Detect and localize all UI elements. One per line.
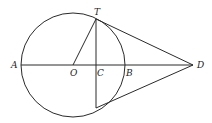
label-a: A — [10, 60, 18, 70]
radius-ot — [73, 19, 96, 65]
geometry-diagram: T A O C B D — [0, 0, 212, 123]
label-o: O — [70, 68, 78, 78]
label-t: T — [94, 7, 101, 17]
label-b: B — [125, 68, 133, 78]
tangent-lower-d — [96, 65, 193, 108]
label-c: C — [97, 68, 104, 78]
tangent-td — [96, 19, 193, 65]
label-d: D — [196, 60, 204, 70]
